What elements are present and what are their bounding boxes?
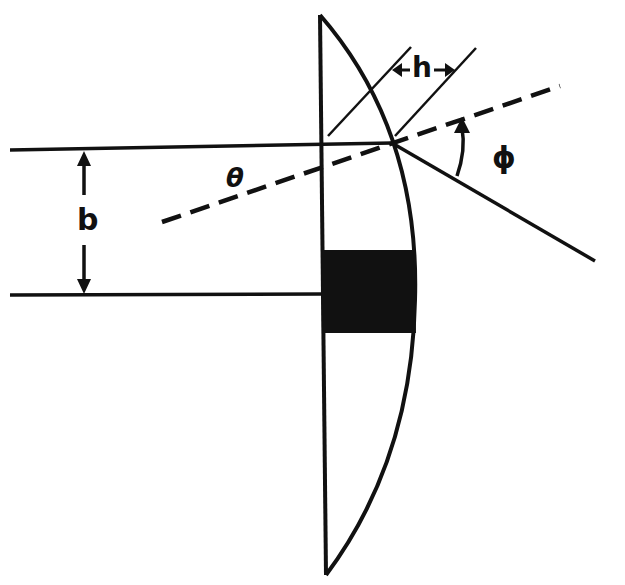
h-line-left	[328, 47, 411, 136]
lens-diagram: b h θ ϕ	[0, 0, 625, 585]
label-theta: θ	[226, 165, 244, 191]
diagram-drawing	[0, 0, 625, 585]
phi-arc	[457, 128, 463, 176]
label-phi: ϕ	[492, 143, 516, 173]
b-arrowhead-up	[77, 151, 91, 166]
incident-ray	[10, 143, 392, 150]
label-h: h	[412, 54, 432, 82]
opaque-stop	[321, 250, 416, 333]
label-b: b	[77, 205, 98, 235]
axis-line	[10, 294, 322, 295]
b-arrowhead-down	[77, 279, 91, 294]
